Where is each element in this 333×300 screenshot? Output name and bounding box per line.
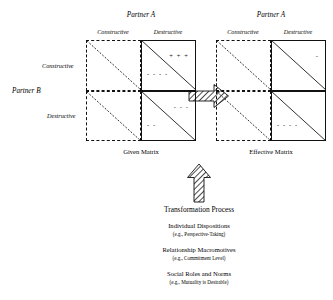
transformation-factor-example-0: (e.g., Perspective-Taking) bbox=[173, 232, 226, 237]
effective-partner-a-label: Partner A bbox=[257, 12, 285, 19]
cell-diagonal-icon bbox=[86, 40, 141, 91]
given-partner-a-label: Partner A bbox=[127, 12, 155, 19]
effective-matrix-caption: Effective Matrix bbox=[249, 149, 293, 156]
figure-canvas: Partner A Constructive Destructive Partn… bbox=[0, 0, 333, 300]
transformation-factor-name-1: Relationship Macromotives bbox=[162, 247, 235, 254]
given-matrix: + + + - - - - - - - - - bbox=[86, 40, 196, 141]
cell-diagonal-icon bbox=[216, 40, 271, 91]
transformation-arrow-up-icon bbox=[186, 163, 212, 203]
given-cell-destructive-constructive bbox=[86, 91, 141, 142]
given-partner-b-label: Partner B bbox=[12, 88, 41, 95]
cell-value-lower: - - - - bbox=[277, 122, 298, 129]
given-column-header-constructive: Constructive bbox=[97, 29, 129, 35]
effective-cell-destructive-destructive: - - - - bbox=[271, 91, 326, 142]
effective-column-header-constructive: Constructive bbox=[227, 29, 259, 35]
given-cell-constructive-constructive bbox=[86, 40, 141, 91]
effective-matrix: - - - - - bbox=[216, 40, 326, 141]
effective-column-header-destructive: Destructive bbox=[284, 29, 313, 35]
cell-diagonal-icon bbox=[216, 91, 271, 142]
cell-value-upper: - bbox=[316, 53, 319, 60]
cell-diagonal-icon bbox=[271, 40, 326, 91]
transformation-factor-name-0: Individual Dispositions bbox=[168, 223, 230, 230]
cell-diagonal-icon bbox=[271, 91, 326, 142]
transformation-factor-example-2: (e.g., Mutuality is Desirable) bbox=[170, 280, 229, 285]
given-column-header-destructive: Destructive bbox=[154, 29, 183, 35]
cell-value-upper: - - - bbox=[174, 104, 189, 111]
transformation-factor-name-2: Social Roles and Norms bbox=[167, 271, 231, 278]
given-row-header-constructive: Constructive bbox=[42, 63, 74, 69]
cell-value-upper: + + + bbox=[169, 53, 189, 60]
effective-cell-constructive-destructive: - bbox=[271, 40, 326, 91]
given-row-header-destructive: Destructive bbox=[47, 113, 76, 119]
cell-value-lower: - - bbox=[147, 122, 156, 129]
cell-diagonal-icon bbox=[86, 91, 141, 142]
transformation-process-title: Transformation Process bbox=[164, 206, 234, 213]
transformation-factor-example-1: (e.g., Commitment Level) bbox=[172, 256, 225, 261]
cell-value-lower: - - - - bbox=[147, 71, 168, 78]
given-matrix-caption: Given Matrix bbox=[123, 149, 159, 156]
effective-cell-destructive-constructive bbox=[216, 91, 271, 142]
effective-cell-constructive-constructive bbox=[216, 40, 271, 91]
